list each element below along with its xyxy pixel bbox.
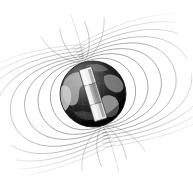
magnetic-field-figure: Earth's magnetic dipole field Earth bar …: [0, 0, 193, 181]
figure-canvas: [0, 0, 193, 181]
